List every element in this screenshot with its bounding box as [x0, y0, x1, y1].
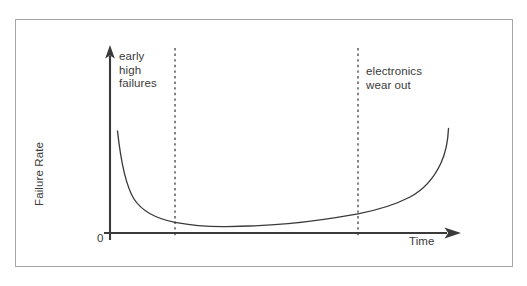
x-axis [104, 227, 461, 238]
y-axis-label: Failure Rate [33, 114, 45, 234]
annotation-electronics-wear-out: electronics wear out [366, 65, 422, 92]
origin-tick-label: 0 [97, 232, 103, 244]
figure-root: early high failures electronics wear out… [0, 0, 527, 286]
bathtub-curve-plot [0, 0, 527, 286]
annotation-early-high-failures: early high failures [119, 50, 157, 91]
y-axis [105, 45, 115, 240]
failure-rate-curve [118, 129, 449, 227]
x-axis-label: Time [409, 235, 435, 247]
caption-sliver [270, 275, 520, 284]
